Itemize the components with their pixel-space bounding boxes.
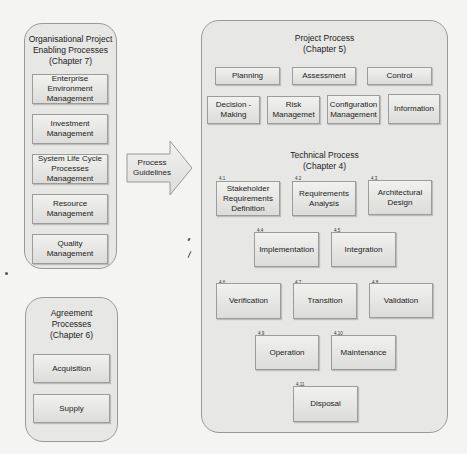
box-label: Maintenance — [341, 348, 387, 358]
assessment-box[interactable]: Assessment — [292, 67, 356, 85]
box-label: Stakeholder Requirements Definition — [219, 184, 277, 214]
box-label: Supply — [59, 404, 83, 414]
configuration-management-box[interactable]: Configuration Management — [327, 95, 380, 124]
disposal-box[interactable]: Disposal — [293, 386, 358, 422]
box-label: Implementation — [259, 245, 314, 255]
stray-mark — [188, 251, 192, 258]
validation-box[interactable]: Validation — [369, 283, 433, 318]
box-label: Integration — [345, 245, 383, 255]
box-label: Enterprise Environment Management — [35, 74, 105, 104]
project-title-line1: Project Process — [201, 33, 448, 44]
bullet-dot — [5, 272, 8, 275]
resource-management-box[interactable]: Resource Management — [32, 194, 108, 224]
transition-box[interactable]: Transition — [293, 283, 357, 319]
agreement-title-line2: Processes — [26, 319, 117, 330]
verification-box[interactable]: Verification — [216, 283, 281, 319]
operation-box[interactable]: Operation — [255, 335, 319, 370]
box-label: Architectural Design — [371, 188, 429, 208]
box-label: Control — [387, 71, 413, 81]
control-box[interactable]: Control — [367, 67, 432, 85]
maintenance-box[interactable]: Maintenance — [331, 335, 396, 370]
enterprise-environment-management-box[interactable]: Enterprise Environment Management — [32, 74, 108, 104]
stray-mark — [187, 238, 190, 242]
stakeholder-requirements-definition-box[interactable]: Stakeholder Requirements Definition — [216, 181, 280, 216]
organisational-title-line1: Organisational Project — [25, 34, 116, 45]
box-label: Disposal — [310, 399, 341, 409]
organisational-title-line3: (Chapter 7) — [25, 56, 116, 67]
box-label: Planning — [232, 71, 263, 81]
technical-title-line2: (Chapter 4) — [201, 161, 448, 172]
box-label: Decision - Making — [210, 100, 257, 120]
architectural-design-box[interactable]: Architectural Design — [368, 180, 432, 215]
box-label: Risk Managemet — [270, 100, 317, 120]
agreement-title-line3: (Chapter 6) — [26, 330, 117, 341]
requirements-analysis-box[interactable]: Requirements Analysis — [292, 181, 356, 216]
technical-title: Technical Process (Chapter 4) — [201, 150, 448, 172]
box-label: System Life Cycle Processes Management — [35, 154, 105, 184]
investment-management-box[interactable]: Investment Management — [32, 114, 108, 144]
integration-box[interactable]: Integration — [331, 232, 396, 267]
box-label: Requirements Analysis — [295, 189, 353, 209]
organisational-processes-group: Organisational Project Enabling Processe… — [24, 23, 117, 269]
process-guidelines-label: Process Guidelines — [128, 156, 176, 180]
organisational-title-line2: Enabling Processes — [25, 45, 116, 56]
box-label: Assessment — [302, 71, 346, 81]
agreement-title: Agreement Processes (Chapter 6) — [26, 308, 117, 341]
box-label: Quality Management — [35, 239, 105, 259]
planning-box[interactable]: Planning — [215, 67, 280, 85]
box-label: Operation — [269, 348, 304, 358]
box-label: Configuration Management — [330, 100, 378, 120]
box-label: Acquisition — [52, 364, 91, 374]
agreement-title-line1: Agreement — [26, 308, 117, 319]
organisational-title: Organisational Project Enabling Processe… — [25, 34, 116, 67]
project-title: Project Process (Chapter 5) — [201, 33, 448, 55]
risk-management-box[interactable]: Risk Managemet — [267, 96, 320, 124]
box-label: Verification — [229, 296, 268, 306]
box-label: Validation — [384, 296, 419, 306]
supply-box[interactable]: Supply — [33, 394, 110, 423]
box-label: Investment Management — [35, 119, 105, 139]
information-box[interactable]: Information — [388, 94, 440, 124]
box-label: Resource Management — [35, 199, 105, 219]
quality-management-box[interactable]: Quality Management — [32, 234, 108, 264]
box-label: Transition — [308, 296, 343, 306]
implementation-box[interactable]: Implementation — [254, 232, 319, 267]
system-life-cycle-processes-management-box[interactable]: System Life Cycle Processes Management — [32, 154, 108, 184]
process-guidelines-arrow: Process Guidelines — [126, 140, 193, 196]
acquisition-box[interactable]: Acquisition — [33, 354, 110, 383]
decision-making-box[interactable]: Decision - Making — [207, 96, 260, 124]
box-label: Information — [394, 104, 434, 114]
technical-title-line1: Technical Process — [201, 150, 448, 161]
project-title-line2: (Chapter 5) — [201, 44, 448, 55]
